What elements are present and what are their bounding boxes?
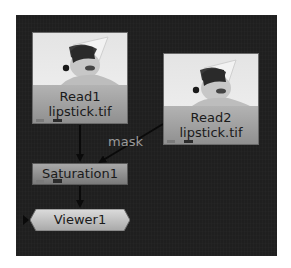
read2-indicator-left (167, 140, 175, 143)
saturation1-name: Saturation1 (33, 166, 127, 181)
viewer-input-arrow-icon (23, 215, 31, 225)
read1-indicator-left (36, 119, 44, 122)
read1-node[interactable]: Read1 lipstick.tif (32, 32, 128, 124)
saturation1-indicator-left (36, 180, 44, 183)
read1-file: lipstick.tif (33, 104, 127, 119)
saturation1-indicator-right (53, 179, 62, 183)
saturation1-node[interactable]: Saturation1 (32, 163, 128, 185)
read2-thumbnail (164, 54, 258, 106)
read2-name: Read2 (164, 110, 258, 125)
mask-edge-label: mask (108, 134, 143, 149)
read1-thumbnail (33, 33, 127, 85)
read2-node[interactable]: Read2 lipstick.tif (163, 53, 259, 145)
read1-name: Read1 (33, 89, 127, 104)
viewer1-node[interactable]: Viewer1 (30, 209, 130, 231)
read1-indicator-right (53, 119, 62, 122)
viewer1-name: Viewer1 (30, 212, 130, 227)
read2-indicator-right (184, 140, 193, 143)
read2-file: lipstick.tif (164, 125, 258, 140)
